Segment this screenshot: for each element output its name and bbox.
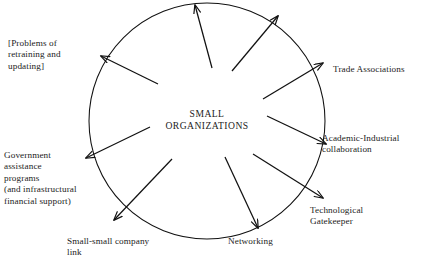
arrow-upper-right-outer [232,16,278,71]
arrow-trade-associations [263,63,323,99]
diagram-canvas: SMALL ORGANIZATIONS [Problems of retrain… [0,0,439,266]
arrow-top [195,5,212,68]
label-government-assistance-programs: Government assistance programs (and infr… [4,150,114,207]
label-trade-associations: Trade Associations [333,64,437,75]
arrow-networking [225,157,258,228]
arrow-academic-industrial [267,116,326,144]
arrow-technological-gatekeeper [253,154,323,198]
label-technological-gatekeeper: Technological Gatekeeper [310,205,410,228]
arrow-retraining-problems [101,56,158,84]
label-academic-industrial-collaboration: Academic-Industrial collaboration [322,133,434,156]
label-networking: Networking [228,236,308,247]
label-small-small-company-link: Small-small company link [67,236,187,259]
arrow-small-small-company [114,159,172,220]
center-label-small-organizations: SMALL ORGANIZATIONS [152,108,262,132]
label-retraining-problems: [Problems of retraining and updating] [8,38,104,72]
